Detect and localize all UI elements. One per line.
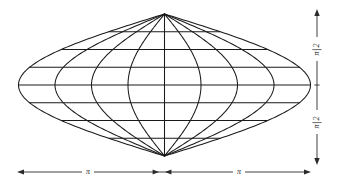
- vertical-axis-arrow-top: [314, 9, 319, 16]
- graticule-group: [19, 14, 311, 156]
- vertical-axis-lower-label: π 2: [312, 110, 323, 134]
- horizontal-axis-left-label-group: π: [82, 167, 94, 177]
- vertical-axis-arrow-bottom: [314, 158, 319, 165]
- projection-diagram: π 2 π 2 π π: [0, 0, 340, 184]
- lower-label-denominator: 2: [312, 116, 321, 120]
- horizontal-axis-arrow-center-right: [165, 170, 171, 175]
- horizontal-axis-group: π π: [17, 167, 311, 177]
- upper-label-denominator: 2: [312, 43, 321, 47]
- horizontal-axis-arrow-center-left: [153, 170, 159, 175]
- vertical-axis-group: π 2 π 2: [312, 9, 323, 165]
- vertical-axis-upper-label: π 2: [312, 37, 323, 61]
- horizontal-axis-arrow-right: [304, 169, 311, 174]
- label-bg-upper: [312, 37, 323, 61]
- label-bg-lower: [312, 110, 323, 134]
- horizontal-axis-right-label-group: π: [233, 167, 245, 177]
- horizontal-axis-arrow-left: [17, 169, 24, 174]
- figure-container: π 2 π 2 π π: [0, 0, 340, 184]
